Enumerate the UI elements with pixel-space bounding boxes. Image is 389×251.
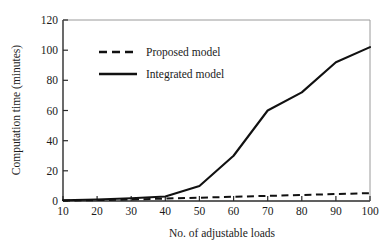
x-tick-label-100: 100 bbox=[361, 205, 379, 217]
x-tick-label-10: 10 bbox=[57, 205, 69, 217]
y-tick-label-100: 100 bbox=[41, 44, 59, 56]
legend-label-integrated-model: Integrated model bbox=[146, 68, 224, 81]
computation-time-line-chart: 0 20 40 60 80 100 120 10 20 30 40 bbox=[0, 0, 389, 251]
legend-label-proposed-model: Proposed model bbox=[146, 46, 220, 59]
x-tick-label-70: 70 bbox=[262, 205, 274, 217]
y-tick-label-80: 80 bbox=[47, 74, 59, 86]
x-tick-label-40: 40 bbox=[160, 205, 172, 217]
y-tick-label-40: 40 bbox=[47, 135, 59, 147]
chart-figure: 0 20 40 60 80 100 120 10 20 30 40 bbox=[0, 0, 389, 251]
x-tick-label-90: 90 bbox=[330, 205, 342, 217]
y-tick-label-20: 20 bbox=[47, 165, 59, 177]
x-tick-label-20: 20 bbox=[91, 205, 103, 217]
x-tick-label-50: 50 bbox=[194, 205, 206, 217]
x-tick-label-60: 60 bbox=[228, 205, 240, 217]
y-tick-label-60: 60 bbox=[47, 105, 59, 117]
x-axis-title: No. of adjustable loads bbox=[169, 227, 276, 240]
x-tick-label-80: 80 bbox=[296, 205, 308, 217]
x-tick-label-30: 30 bbox=[125, 205, 137, 217]
y-axis-title: Computation time (minutes) bbox=[10, 45, 23, 175]
y-tick-label-120: 120 bbox=[41, 14, 59, 26]
